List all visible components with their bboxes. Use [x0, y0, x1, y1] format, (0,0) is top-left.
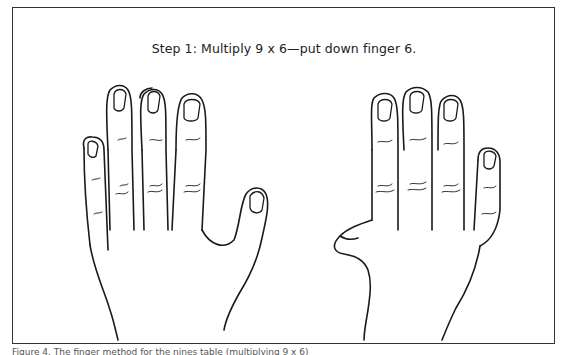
hands-illustration — [0, 0, 568, 355]
right-hand-icon — [334, 88, 500, 341]
figure-caption: Figure 4. The finger method for the nine… — [12, 347, 309, 355]
left-hand-icon — [83, 86, 267, 341]
